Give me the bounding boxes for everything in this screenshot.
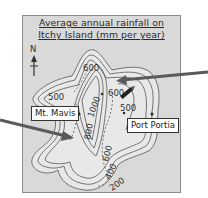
north-label: N	[30, 44, 36, 54]
contour-label-500-east: 500	[120, 103, 136, 113]
location-dot	[123, 112, 125, 114]
port-portia-label: Port Portia	[127, 118, 179, 133]
contour-label-600-north: 600	[83, 63, 99, 73]
location-dot	[101, 93, 103, 95]
island-map: 500 600 600 500 1000 800 600 400 200 N	[0, 0, 208, 198]
mt-mavis-label: Mt. Mavis	[31, 106, 79, 121]
contour-label-500-west: 500	[48, 92, 64, 102]
north-arrow-icon	[30, 55, 38, 76]
port-dot	[151, 113, 154, 116]
